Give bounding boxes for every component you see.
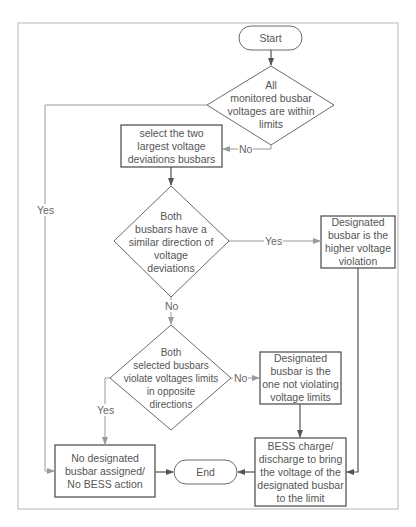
select-two-label: select the two largest voltage deviation… [121, 125, 222, 167]
higher-violation-label: Designated busbar is the higher voltage … [321, 216, 395, 268]
edge-label-check-yes: Yes [36, 204, 55, 216]
opposite-directions-label: Both selected busbars violate voltages l… [112, 345, 230, 411]
end-label: End [174, 460, 237, 484]
start-label: Start [239, 26, 302, 50]
not-violating-label: Designated busbar is the one not violati… [260, 352, 341, 404]
check-limits-label: All monitored busbar voltages are within… [217, 74, 325, 136]
similar-direction-label: Both busbars have a similar direction of… [118, 208, 224, 276]
edge-label-check-no: No [238, 143, 253, 155]
bess-action-label: BESS charge/ discharge to bring the volt… [255, 438, 346, 506]
edge-label-opposite-yes: Yes [96, 404, 115, 416]
edge-label-opposite-no: No [233, 372, 248, 384]
no-action-label: No designated busbar assigned/ No BESS a… [55, 445, 155, 497]
edge-higher-to-bess [347, 268, 358, 472]
edge-label-similar-no: No [164, 300, 179, 312]
edge-label-similar-yes: Yes [264, 235, 283, 247]
